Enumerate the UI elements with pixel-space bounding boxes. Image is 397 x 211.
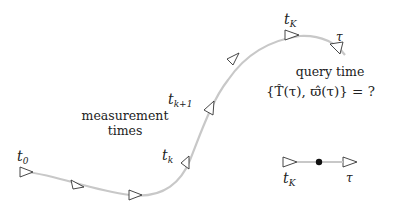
inset-interpolation-dot [316,159,322,165]
query-formula: {T̂(τ), ϖ̂(τ)} = ? [266,85,375,99]
measurement-marker-tK [285,30,299,40]
query-time-label: query time [290,64,370,79]
trajectory-curve [27,36,345,196]
inset-marker-tK [283,157,297,167]
trajectory-diagram: t0 tk tk+1 tK τ measurement times query … [0,0,397,211]
measurement-marker-tk1 [204,101,214,115]
label-tau: τ [336,31,343,43]
measurement-times-annotation: measurement times [80,108,170,138]
label-t0: t0 [17,149,28,163]
measurement-marker-t0 [20,167,33,177]
label-tk1: tk+1 [168,92,192,106]
measurement-marker [227,53,239,65]
measurement-marker-tk [181,156,189,169]
measurement-marker [129,190,142,200]
inset-label-tau: τ [346,172,353,184]
measurement-line2: times [80,123,170,138]
measurement-line1: measurement [80,108,170,123]
inset-label-tK: tK [283,171,295,185]
label-tK: tK [284,12,296,26]
label-tk: tk [162,148,173,162]
inset-marker-tau [343,157,357,167]
